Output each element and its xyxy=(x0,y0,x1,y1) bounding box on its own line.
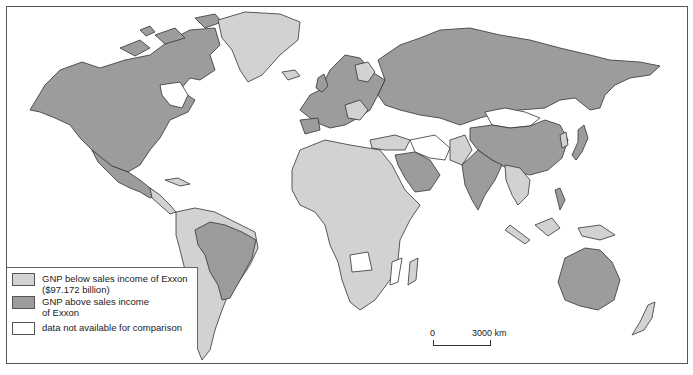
legend-label-sub: ($97.172 billion) xyxy=(42,284,188,295)
australia xyxy=(558,248,620,310)
legend-swatch-white xyxy=(12,322,35,335)
scale-bar: 0 3000 km xyxy=(430,328,510,348)
scale-line xyxy=(433,340,491,346)
legend-label: GNP below sales income of Exxon xyxy=(42,273,188,284)
legend-swatch-dark-gray xyxy=(12,296,35,309)
legend-swatch-light-gray xyxy=(12,273,35,286)
legend-item-na: data not available for comparison xyxy=(12,322,182,335)
legend-item-above: GNP above sales income of Exxon xyxy=(12,296,149,318)
legend-label: data not available for comparison xyxy=(42,322,182,333)
legend-label-sub: of Exxon xyxy=(42,307,149,318)
europe xyxy=(300,55,385,128)
legend-item-below: GNP below sales income of Exxon ($97.172… xyxy=(12,273,188,295)
legend-label: GNP above sales income xyxy=(42,296,149,307)
scale-start-label: 0 xyxy=(430,328,435,338)
scale-end-label: 3000 km xyxy=(472,328,507,338)
map-legend: GNP below sales income of Exxon ($97.172… xyxy=(7,267,198,348)
